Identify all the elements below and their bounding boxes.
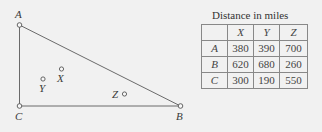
row-header-a: A: [202, 41, 228, 57]
point-x-label: X: [57, 73, 64, 84]
cell-c-y: 190: [254, 73, 280, 89]
point-x-marker: [59, 67, 63, 71]
point-y-marker: [41, 77, 45, 81]
table-title: Distance in miles: [212, 9, 288, 21]
vertex-b-marker: [178, 104, 183, 109]
header-y: Y: [254, 25, 280, 41]
table-row: A 380 390 700: [202, 41, 308, 57]
vertex-c-label: C: [15, 111, 22, 122]
distance-table: X Y Z A 380 390 700 B 620 680 260 C 300 …: [201, 24, 308, 89]
cell-c-x: 300: [228, 73, 254, 89]
row-header-b: B: [202, 57, 228, 73]
table-row: C 300 190 550: [202, 73, 308, 89]
vertex-b-label: B: [176, 111, 183, 122]
vertex-a-label: A: [15, 9, 22, 20]
triangle-diagram: [0, 0, 200, 132]
point-z-label: Z: [112, 89, 118, 100]
header-z: Z: [280, 25, 308, 41]
point-z-marker: [122, 92, 126, 96]
cell-b-x: 620: [228, 57, 254, 73]
cell-b-z: 260: [280, 57, 308, 73]
cell-b-y: 680: [254, 57, 280, 73]
vertex-c-marker: [17, 104, 22, 109]
table-row: B 620 680 260: [202, 57, 308, 73]
header-corner: [202, 25, 228, 41]
vertex-a-marker: [17, 23, 22, 28]
point-y-label: Y: [39, 83, 45, 94]
cell-c-z: 550: [280, 73, 308, 89]
cell-a-z: 700: [280, 41, 308, 57]
cell-a-x: 380: [228, 41, 254, 57]
header-x: X: [228, 25, 254, 41]
row-header-c: C: [202, 73, 228, 89]
cell-a-y: 390: [254, 41, 280, 57]
table-header-row: X Y Z: [202, 25, 308, 41]
